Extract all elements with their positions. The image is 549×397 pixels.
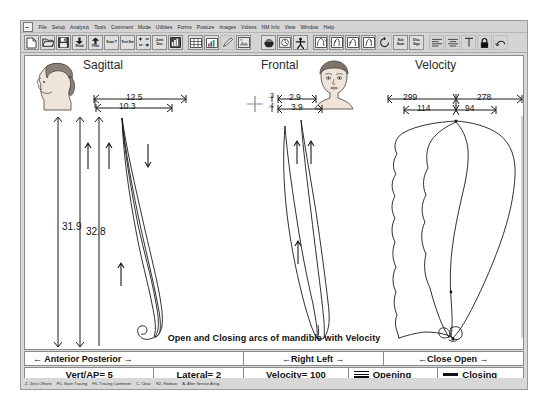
plot-caption: Open and Closing arcs of mandible with V… bbox=[25, 333, 523, 343]
menu-item-posture[interactable]: Posture bbox=[194, 24, 217, 30]
menu-item-setup[interactable]: Setup bbox=[49, 24, 67, 30]
pen-button[interactable] bbox=[220, 35, 235, 50]
disc-sign-button[interactable]: Disc Sign bbox=[409, 35, 424, 50]
status-alter-sensor[interactable]: A- Alter Sensor Array bbox=[182, 381, 219, 386]
scan-tracing-button[interactable]: Scan T bbox=[104, 35, 119, 50]
mouse-button[interactable] bbox=[261, 35, 276, 50]
tracing-3-button[interactable] bbox=[345, 35, 360, 50]
test-set-button[interactable]: Test Set bbox=[120, 35, 135, 50]
axis-label-frontal: ←Right Left → bbox=[244, 352, 383, 365]
tracing-2-button[interactable] bbox=[329, 35, 344, 50]
status-redraw[interactable]: R2- Redraw bbox=[156, 381, 177, 386]
chart-button[interactable] bbox=[168, 35, 183, 50]
menu-item-forms[interactable]: Forms bbox=[175, 24, 194, 30]
joint-doc-button-label: Joint Doc bbox=[153, 39, 166, 46]
status-clear[interactable]: C- Clear bbox=[136, 381, 151, 386]
menu-item-nminfo[interactable]: NM Info bbox=[259, 24, 282, 30]
person-button[interactable] bbox=[293, 35, 308, 50]
measurement-velocity-114: 114 bbox=[417, 103, 431, 113]
new-document-button[interactable] bbox=[24, 35, 39, 50]
align-center-button[interactable] bbox=[445, 35, 460, 50]
clock-button[interactable] bbox=[277, 35, 292, 50]
legend-closing-swatch bbox=[443, 373, 458, 376]
application-window: File Setup Analysis Tools Comment Mode U… bbox=[0, 0, 549, 397]
save-button[interactable] bbox=[56, 35, 71, 50]
measurement-frontal-2-9: 2.9 bbox=[289, 92, 301, 102]
measurement-sagittal-32-8: 32.8 bbox=[86, 226, 105, 237]
axis-direction-row: ← Anterior Posterior → ←Right Left → ←Cl… bbox=[24, 351, 524, 366]
print-button-label: Print bbox=[92, 45, 99, 49]
menu-bar: File Setup Analysis Tools Comment Mode U… bbox=[21, 21, 527, 33]
axis-label-sagittal: ← Anterior Posterior → bbox=[25, 352, 244, 365]
menu-item-analysis[interactable]: Analysis bbox=[68, 24, 92, 30]
read-button[interactable]: Read bbox=[72, 35, 87, 50]
system-menu-icon[interactable] bbox=[23, 22, 33, 32]
menu-item-images[interactable]: Images bbox=[217, 24, 239, 30]
align-left-button[interactable] bbox=[429, 35, 444, 50]
tracing-1-button[interactable] bbox=[313, 35, 328, 50]
test-set-button-label: Test Set bbox=[121, 41, 133, 45]
menu-item-window[interactable]: Window bbox=[298, 24, 321, 30]
grid-button[interactable] bbox=[188, 35, 203, 50]
sub-scan-button[interactable]: Sub Scan bbox=[393, 35, 408, 50]
menu-item-mode[interactable]: Mode bbox=[136, 24, 154, 30]
menu-item-utilities[interactable]: Utilities bbox=[153, 24, 175, 30]
scroll-direction-arrow-icon bbox=[523, 149, 524, 185]
open-folder-button[interactable] bbox=[40, 35, 55, 50]
axis-label-velocity: ←Close Open → bbox=[384, 352, 523, 365]
undo-button[interactable] bbox=[493, 35, 508, 50]
measurement-frontal-point-4: .4 bbox=[268, 102, 274, 109]
read-button-label: Read bbox=[76, 45, 84, 49]
measurement-sagittal-10-3: 10.3 bbox=[119, 101, 136, 111]
image-button[interactable] bbox=[236, 35, 251, 50]
menu-item-tools[interactable]: Tools bbox=[92, 24, 109, 30]
print-button[interactable]: Print bbox=[88, 35, 103, 50]
menu-item-view[interactable]: View bbox=[282, 24, 298, 30]
main-window: File Setup Analysis Tools Comment Mode U… bbox=[20, 20, 528, 390]
menu-item-comment[interactable]: Comment bbox=[109, 24, 136, 30]
menu-item-help[interactable]: Help bbox=[321, 24, 336, 30]
measurement-velocity-94: 94 bbox=[465, 103, 474, 113]
frontal-plot-svg bbox=[225, 56, 405, 349]
status-zero-offsets[interactable]: Z- Zero Offsets bbox=[25, 381, 52, 386]
sagittal-plot-svg bbox=[25, 56, 225, 349]
toolbar: Read Print Scan T Test Set Joint Doc bbox=[21, 33, 527, 53]
menu-item-videos[interactable]: Videos bbox=[239, 24, 260, 30]
menu-item-file[interactable]: File bbox=[36, 24, 49, 30]
status-tracing-comment[interactable]: F6- Tracing Comment bbox=[92, 381, 131, 386]
sub-scan-button-label: Sub Scan bbox=[394, 39, 407, 46]
measurement-velocity-278: 278 bbox=[477, 92, 491, 102]
status-bar: Z- Zero Offsets F5- Save Tracing F6- Tra… bbox=[21, 378, 527, 389]
tracing-4-button[interactable] bbox=[361, 35, 376, 50]
lock-button[interactable] bbox=[477, 35, 492, 50]
scan-tracing-button-label: Scan T bbox=[106, 41, 117, 45]
size-button[interactable] bbox=[136, 35, 151, 50]
measurement-frontal-3-9: 3.9 bbox=[291, 102, 303, 112]
disc-sign-button-label: Disc Sign bbox=[410, 39, 423, 46]
status-save-tracing[interactable]: F5- Save Tracing bbox=[57, 381, 87, 386]
measurement-frontal-point-3: .3 bbox=[268, 92, 274, 99]
joint-doc-button[interactable]: Joint Doc bbox=[152, 35, 167, 50]
tracing-canvas[interactable]: Sagittal Frontal Velocity bbox=[24, 55, 524, 350]
refresh-button[interactable] bbox=[377, 35, 392, 50]
text-button[interactable] bbox=[461, 35, 476, 50]
measurement-sagittal-31-9: 31.9 bbox=[62, 221, 81, 232]
bar-graph-button[interactable] bbox=[204, 35, 219, 50]
measurement-velocity-299: 299 bbox=[403, 92, 417, 102]
